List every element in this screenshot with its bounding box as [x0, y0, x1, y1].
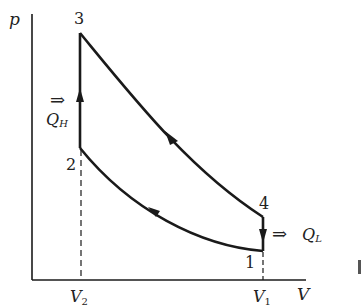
- heat-out-label: QL: [302, 225, 322, 244]
- x-axis-label: V: [297, 284, 311, 304]
- point-3-label: 3: [74, 9, 84, 28]
- heat-out-arrow-icon: ⇒: [272, 223, 287, 244]
- pv-diagram: p V V2 V1 3 2 4 1 ⇒ QH ⇒ QL: [0, 0, 364, 307]
- process-1-2: [80, 148, 263, 251]
- heat-in-arrow-icon: ⇒: [50, 89, 65, 110]
- v2-label: V2: [70, 287, 88, 307]
- v1-label: V1: [253, 287, 271, 307]
- process-3-4: [80, 33, 263, 217]
- arrow-down-icon: [259, 229, 267, 243]
- arrow-up-icon: [76, 88, 84, 102]
- y-axis-label: p: [9, 9, 20, 29]
- heat-in-label: QH: [46, 110, 68, 129]
- edge-mark: [358, 260, 361, 274]
- point-4-label: 4: [259, 194, 269, 213]
- point-2-label: 2: [66, 155, 76, 174]
- point-1-label: 1: [245, 253, 255, 272]
